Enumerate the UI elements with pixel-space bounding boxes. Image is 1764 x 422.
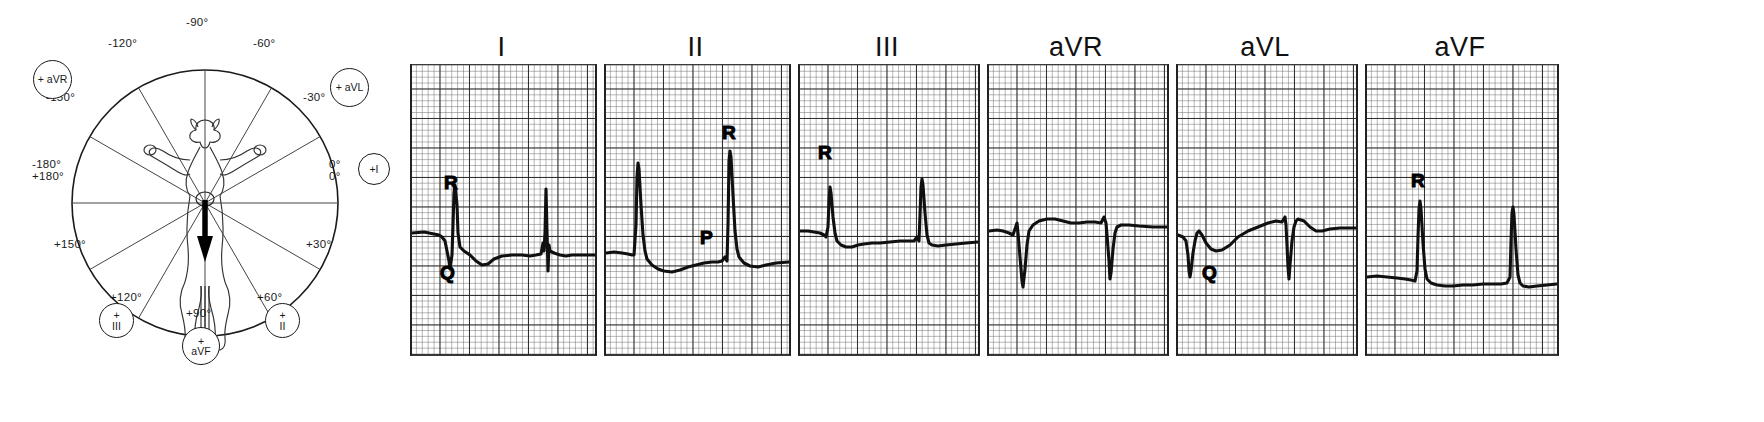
degree-label-neg90: -90° <box>186 16 208 28</box>
ecg-panel-lead-II: II P R <box>604 30 787 356</box>
degree-label-neg30: -30° <box>303 91 325 103</box>
degree-label-neg120: -120° <box>108 37 137 49</box>
annotation-R-lead-aVF: R <box>1411 171 1425 190</box>
ecg-waveform-lead-III <box>800 65 978 355</box>
degree-label-pos150: +150° <box>54 238 86 250</box>
ecg-panel-lead-III: III R <box>798 30 976 356</box>
lead-circle-iii: + III <box>99 303 134 338</box>
annotation-P-lead-II: P <box>700 228 713 247</box>
ecg-strip-lead-aVR <box>987 64 1169 356</box>
degree-label-plus-minus-180: -180° +180° <box>32 158 64 182</box>
ecg-title-lead-aVR: aVR <box>987 30 1165 64</box>
lead-circle-i-label: +I <box>369 164 378 175</box>
ecg-title-lead-III: III <box>798 30 976 64</box>
lead-circle-iii-label: + III <box>112 310 121 331</box>
ecg-waveform-lead-aVL <box>1178 65 1356 355</box>
ecg-waveform-lead-I <box>412 65 595 355</box>
ecg-waveform-lead-aVF <box>1367 65 1557 355</box>
annotation-Q-lead-I: Q <box>440 263 455 282</box>
ecg-strip-lead-aVL: Q <box>1176 64 1358 356</box>
degree-label-pos60: +60° <box>257 291 282 303</box>
ecg-panel-lead-aVF: aVF R <box>1365 30 1555 356</box>
degree-label-zero: 0° 0° <box>329 158 341 182</box>
ecg-title-lead-I: I <box>410 30 593 64</box>
ecg-panel-lead-aVL: aVL Q <box>1176 30 1354 356</box>
degree-label-neg60: -60° <box>253 37 275 49</box>
lead-circle-i: +I <box>358 153 390 185</box>
hexaxial-reference-diagram: -90° -120° -60° -150° -30° -180° +180° 0… <box>0 0 410 422</box>
degree-label-pos120: +120° <box>110 291 142 303</box>
lead-circle-avf: + aVF <box>182 327 220 365</box>
ecg-waveform-lead-aVR <box>989 65 1167 355</box>
ecg-strip-lead-II: P R <box>604 64 791 356</box>
ecg-title-lead-aVF: aVF <box>1365 30 1555 64</box>
ecg-title-lead-aVL: aVL <box>1176 30 1354 64</box>
degree-label-pos30: +30° <box>306 238 331 250</box>
annotation-Q-lead-aVL: Q <box>1202 263 1217 282</box>
ecg-waveform-lead-II <box>606 65 789 355</box>
ecg-panel-lead-aVR: aVR <box>987 30 1165 356</box>
ecg-title-lead-II: II <box>604 30 787 64</box>
ecg-strip-lead-I: R Q <box>410 64 597 356</box>
lead-circle-ii: + II <box>265 303 300 338</box>
lead-circle-avr-label: + aVR <box>38 74 67 85</box>
lead-circle-avl: + aVL <box>330 68 369 107</box>
annotation-R-lead-II: R <box>722 123 736 142</box>
ecg-strip-lead-III: R <box>798 64 980 356</box>
ecg-strip-row: I R Q II P R III <box>410 0 1764 422</box>
ecg-strip-lead-aVF: R <box>1365 64 1559 356</box>
degree-label-pos90: +90° <box>186 307 211 319</box>
ecg-panel-lead-I: I R Q <box>410 30 593 356</box>
lead-circle-avf-label: + aVF <box>191 336 210 357</box>
annotation-R-lead-I: R <box>444 173 458 192</box>
mean-electrical-axis-arrow <box>197 200 213 262</box>
lead-circle-ii-label: + II <box>279 310 285 331</box>
lead-circle-avl-label: + aVL <box>336 82 364 93</box>
annotation-R-lead-III: R <box>818 143 832 162</box>
lead-circle-avr: + aVR <box>33 60 72 99</box>
